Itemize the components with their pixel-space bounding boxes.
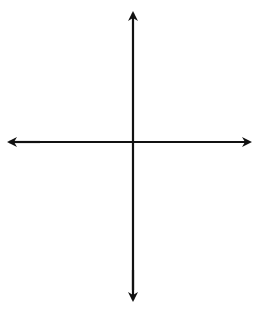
equation-label (0, 0, 243, 300)
parabola-graph (0, 0, 258, 315)
